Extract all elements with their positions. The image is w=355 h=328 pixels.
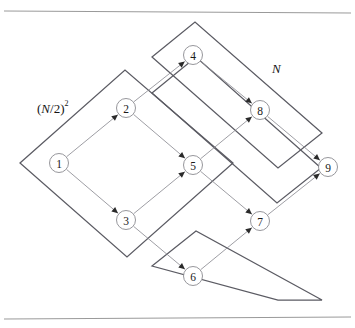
graph-edge-3-5 <box>134 172 185 214</box>
graph-edge-2-4 <box>134 62 185 102</box>
arrowhead-1-2 <box>111 115 118 121</box>
node-label-6: 6 <box>190 271 196 283</box>
graph-node-2[interactable]: 2 <box>117 99 136 118</box>
node-label-2: 2 <box>123 103 129 115</box>
graph-node-3[interactable]: 3 <box>117 211 136 230</box>
diagram-svg: 123456789 (N/2)2 N <box>0 0 355 328</box>
graph-node-5[interactable]: 5 <box>184 156 203 175</box>
graph-edge-7-9 <box>268 174 320 215</box>
graph-edge-3-6 <box>134 226 185 269</box>
graph-edge-6-7 <box>201 228 252 270</box>
top-rule <box>4 11 351 13</box>
graph-node-8[interactable]: 8 <box>251 101 270 120</box>
arrowhead-3-6 <box>178 263 185 269</box>
node-label-4: 4 <box>190 50 196 62</box>
arrowhead-8-9 <box>313 154 320 160</box>
graph-node-4[interactable]: 4 <box>184 46 203 65</box>
graph-edge-4-8 <box>201 61 252 103</box>
graph-edge-8-9 <box>268 116 320 160</box>
graph-node-1[interactable]: 1 <box>50 154 69 173</box>
arrowhead-5-7 <box>245 208 252 214</box>
node-label-1: 1 <box>56 158 62 170</box>
region-labels: (N/2)2 N <box>37 61 282 116</box>
graph-edge-1-2 <box>67 115 118 157</box>
node-label-3: 3 <box>123 215 129 227</box>
graph-node-6[interactable]: 6 <box>184 267 203 286</box>
graph-edge-1-3 <box>67 169 118 213</box>
arrowhead-3-5 <box>178 172 185 178</box>
figure-canvas: 123456789 (N/2)2 N <box>0 0 355 328</box>
node-label-5: 5 <box>190 160 196 172</box>
region-label-large: N <box>271 61 282 76</box>
graph-edge-2-5 <box>134 114 185 158</box>
node-label-9: 9 <box>325 162 331 174</box>
arrowhead-6-7 <box>245 228 252 234</box>
bottom-rule <box>4 317 351 319</box>
region-boundary-bottom <box>152 231 322 300</box>
arrowhead-7-9 <box>313 174 320 180</box>
graph-nodes: 123456789 <box>50 46 338 286</box>
node-label-8: 8 <box>257 105 263 117</box>
graph-node-7[interactable]: 7 <box>251 212 270 231</box>
graph-node-9[interactable]: 9 <box>319 158 338 177</box>
arrowhead-5-8 <box>245 117 252 123</box>
arrowheads <box>111 62 320 270</box>
graph-edge-5-7 <box>201 171 252 214</box>
region-label-small: (N/2)2 <box>37 99 68 116</box>
node-label-7: 7 <box>257 216 263 228</box>
